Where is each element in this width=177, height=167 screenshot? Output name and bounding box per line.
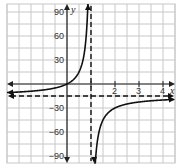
- x-tick-label: 4: [160, 86, 165, 96]
- y-tick-label: −30: [49, 103, 64, 113]
- x-axis-label: x: [169, 85, 175, 96]
- curve-right-branch: [94, 99, 174, 163]
- arrow-right-icon: [169, 96, 175, 102]
- arrow-up-icon: [85, 4, 91, 10]
- x-tick-label: 3: [136, 86, 141, 96]
- arrow-left-icon: [7, 81, 13, 87]
- y-axis-label: y: [70, 4, 76, 15]
- function-graph: yx 234906030−30−60−90: [0, 0, 177, 167]
- y-tick-label: −60: [49, 127, 64, 137]
- y-tick-label: −90: [49, 151, 64, 161]
- y-tick-label: 30: [54, 55, 64, 65]
- arrow-up-icon: [64, 4, 70, 10]
- arrow-left-icon: [7, 90, 13, 96]
- y-tick-label: 60: [54, 31, 64, 41]
- arrow-down-icon: [64, 157, 70, 163]
- x-tick-label: 2: [112, 86, 117, 96]
- y-tick-label: 90: [54, 7, 64, 17]
